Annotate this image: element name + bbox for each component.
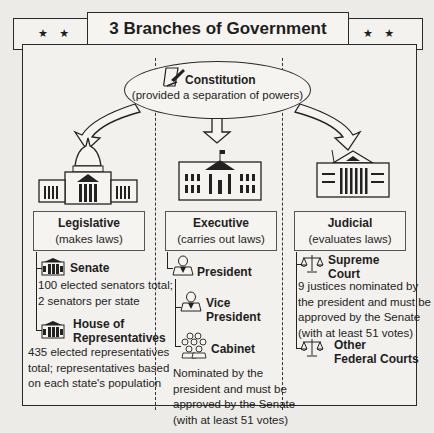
building-icon [40,321,66,339]
judicial-name: Judicial [295,215,405,231]
group-icon [180,332,208,358]
senate-desc-line: 2 senators per state [38,294,173,310]
cabinet-desc-line: president and must be [173,382,295,398]
president-title: President [197,265,252,279]
judicial-tree-line [296,252,297,348]
sc-desc-line: 9 justices nominated by [298,279,431,295]
supreme-court-description: 9 justices nominated by the president an… [298,279,431,341]
senate-description: 100 elected senators total; 2 senators p… [38,278,173,309]
judicial-role: (evaluates laws) [308,233,391,245]
vice-president-title: Vice President [206,296,261,324]
vp-title-line: President [206,310,261,324]
other-courts-title: Other Federal Courts [334,338,419,366]
legislative-role: (makes laws) [55,233,123,245]
house-desc-line: on each state's population [28,376,169,392]
person-icon [172,256,194,276]
executive-label: Executive (carries out laws) [165,211,277,251]
house-desc-line: 435 elected representatives [28,345,169,361]
legislative-label: Legislative (makes laws) [33,211,145,251]
cabinet-description: Nominated by the president and must be a… [173,366,295,428]
sc-title-line: Supreme [328,253,379,267]
constitution-subtitle: (provided a separation of powers) [125,89,310,101]
oc-title-line: Federal Courts [334,352,419,366]
scales-icon [300,254,324,274]
person-icon [180,292,202,312]
capitol-building-icon [35,138,125,208]
senate-desc-line: 100 elected senators total; [38,278,173,294]
oc-title-line: Other [334,338,419,352]
sc-desc-line: the president and must be [298,295,431,311]
scroll-quill-icon [163,66,187,90]
executive-subtree-line [175,279,176,346]
judicial-label: Judicial (evaluates laws) [294,211,406,251]
senate-title: Senate [70,261,109,275]
house-title-line: House of [73,317,166,331]
cabinet-desc-line: approved by the Senate [173,397,295,413]
scales-icon [300,338,324,358]
supreme-court-title: Supreme Court [328,253,379,281]
executive-role: (carries out laws) [177,233,265,245]
supreme-court-icon [313,148,393,203]
house-title-line: Representatives [73,331,166,345]
legislative-tree-line [36,252,37,330]
sc-desc-line: approved by the Senate [298,310,431,326]
house-title: House of Representatives [73,317,166,345]
executive-name: Executive [166,215,276,231]
building-icon [40,258,66,276]
cabinet-title: Cabinet [211,342,255,356]
white-house-icon [177,150,263,205]
vp-title-line: Vice [206,296,261,310]
cabinet-desc-line: (with at least 51 votes) [173,413,295,429]
executive-tree-line [167,252,168,268]
legislative-name: Legislative [34,215,144,231]
house-description: 435 elected representatives total; repre… [28,345,169,392]
house-desc-line: total; representatives based [28,361,169,377]
constitution-node: Constitution (provided a separation of p… [124,61,311,119]
constitution-title: Constitution [185,73,256,87]
cabinet-desc-line: Nominated by the [173,366,295,382]
